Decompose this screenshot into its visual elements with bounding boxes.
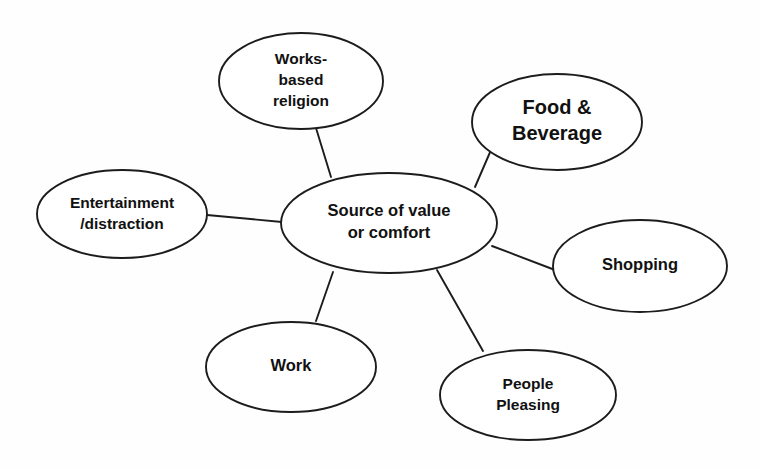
node-label-line: religion [273,92,329,109]
node-label-line: Pleasing [496,396,560,413]
node-label-line: /distraction [80,215,164,232]
node-label-shopping: Shopping [602,255,678,273]
connector-center-to-food-and-beverage [475,150,491,187]
node-label-line: based [279,71,324,88]
node-label-works-based-religion: Works-basedreligion [273,50,329,109]
node-label-line: Shopping [602,255,678,273]
mind-map-canvas: Works-basedreligionFood &BeverageShoppin… [0,0,761,469]
connector-center-to-work [316,272,333,321]
node-label-line: Source of value [328,201,451,219]
node-label-line: Work [271,356,313,374]
center-node-group: Source of valueor comfort [281,173,497,273]
node-label-line: Entertainment [70,194,174,211]
mind-map-diagram: Works-basedreligionFood &BeverageShoppin… [0,0,761,469]
node-label-line: or comfort [348,223,431,241]
node-label-line: Works- [275,50,327,67]
node-label-line: Beverage [512,122,602,144]
connector-center-to-shopping [492,246,555,270]
connector-center-to-people-pleasing [437,270,483,351]
node-label-work: Work [271,356,313,374]
node-label-line: Food & [523,96,592,118]
connector-center-to-works-based-religion [316,128,331,177]
connector-center-to-entertainment-distraction [207,215,282,222]
node-label-line: People [503,375,554,392]
